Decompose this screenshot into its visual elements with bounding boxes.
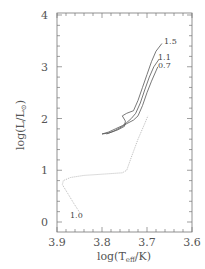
y-tick-label: 1 bbox=[41, 164, 48, 177]
curve-label-0-7: 0.7 bbox=[158, 61, 171, 70]
y-tick-label: 3 bbox=[41, 61, 48, 74]
track-1-1 bbox=[102, 59, 159, 134]
track-1-0 bbox=[62, 116, 147, 214]
series-group bbox=[62, 44, 161, 215]
curve-label-1-5: 1.5 bbox=[164, 37, 177, 46]
x-tick-label: 3.6 bbox=[183, 236, 201, 249]
x-tick-label: 3.7 bbox=[138, 236, 156, 249]
x-tick-label: 3.9 bbox=[48, 236, 66, 249]
hr-diagram-chart: 0 1 2 3 4 3.9 3.8 3.7 3.6 log(Teff/K) lo… bbox=[0, 0, 205, 269]
x-axis-title: log(Teff/K) bbox=[97, 250, 151, 264]
x-tick-label: 3.8 bbox=[93, 236, 111, 249]
y-tick-label: 2 bbox=[41, 113, 48, 126]
y-tick-label: 0 bbox=[41, 216, 48, 229]
track-1-5 bbox=[102, 44, 162, 135]
track-0-7 bbox=[107, 67, 158, 134]
curve-label-1-0: 1.0 bbox=[70, 211, 83, 220]
y-axis-title: log(L/L⊙) bbox=[14, 100, 28, 150]
y-tick-label: 4 bbox=[41, 9, 48, 22]
